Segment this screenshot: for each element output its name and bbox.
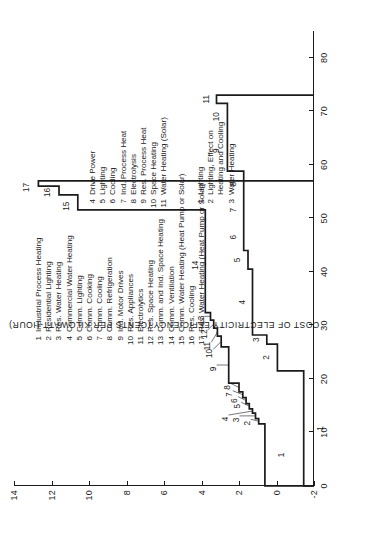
legend-item: 1Lighting: [196, 122, 206, 210]
legend-item-label: Water Heating (Solar): [159, 117, 169, 195]
leader-line: [231, 384, 239, 388]
legend-item-number: 5: [98, 195, 108, 210]
x-tick-label: 40: [319, 267, 329, 277]
y-tick-label: 12: [47, 490, 57, 503]
leader-line: [213, 341, 221, 349]
legend-item-label: Industrial Process Heating: [34, 238, 44, 332]
legend-item-label: Comm. Refrigeration: [105, 257, 115, 332]
legend-item-label: Res. Water Heating: [54, 262, 64, 332]
step-label: 4: [237, 300, 246, 305]
y-tick-label: 8: [122, 490, 132, 503]
step-label: 11: [201, 95, 210, 104]
legend-item-number: 10: [126, 332, 136, 347]
step-label: 6: [230, 398, 239, 403]
legend-item-number: 9: [116, 332, 126, 347]
step-label: 9: [208, 367, 217, 372]
step-label: 3: [251, 337, 260, 342]
legend-item-number: 8: [129, 195, 139, 210]
legend-item-label: Comm. Cooking: [85, 274, 95, 332]
y-tick: [314, 481, 315, 486]
legend-item-label: Lighting, Effect on: [206, 130, 216, 195]
step-label: 5: [233, 258, 242, 263]
step-label: 7: [224, 392, 233, 397]
legend-item-number: 4: [88, 195, 98, 210]
legend-item-number: 13: [156, 332, 166, 347]
legend-item-number: 6: [85, 332, 95, 347]
legend-item-label: Residential Lighting: [44, 261, 54, 332]
y-tick-label: 4: [197, 490, 207, 503]
step-label: 3: [231, 418, 240, 423]
legend-item-number: 7: [95, 332, 105, 347]
step-label: 6: [228, 235, 237, 240]
legend-item-number: 2: [44, 332, 54, 347]
y-tick-label: 2: [234, 490, 244, 503]
x-tick-label: 30: [319, 320, 329, 330]
legend-item: 3Res. Water Heating: [54, 174, 64, 347]
x-tick-label: 70: [319, 106, 329, 116]
legend-item-number: 8: [105, 332, 115, 347]
x-tick-label: 50: [319, 213, 329, 223]
legend-item-number: 1: [196, 195, 206, 210]
legend-item: 4Drive Power: [88, 117, 98, 210]
legend-item-label: Res. Appliances: [126, 274, 136, 332]
legend-item-label: Cooling: [108, 168, 118, 195]
legend-item-number: 14: [167, 332, 177, 347]
legend-lower-right: 4Drive Power5Lighting6Cooling7Ind. Proce…: [88, 117, 170, 210]
y-tick-label: 6: [159, 490, 169, 503]
legend-item: 3Water Heating: [227, 122, 237, 210]
step-label: 1: [315, 426, 324, 431]
legend-item-label: Comm. Ventilation: [167, 266, 177, 332]
legend-item-number: 3: [227, 195, 237, 210]
legend-item-label: Ind. Motor Drives: [116, 270, 126, 332]
step-label: 5: [233, 404, 242, 409]
legend-item-number: 2: [206, 195, 216, 210]
y-tick-label: 14: [9, 490, 19, 503]
legend-item-label: Comm. and Ind. Space Heating: [156, 219, 166, 332]
legend-item-label: Comm. Cooling: [95, 276, 105, 332]
leader-line: [208, 324, 214, 330]
legend-item: 1Industrial Process Heating: [34, 174, 44, 347]
step-label: 8: [223, 385, 232, 390]
legend-item-label: Water Heating: [227, 144, 237, 195]
legend-item-label: Electrolytics: [136, 289, 146, 332]
step-label: 2: [242, 421, 251, 426]
step-label: 2: [262, 355, 271, 360]
legend-item: 2Lighting, Effect on: [206, 122, 216, 210]
x-tick-label: 0: [319, 483, 329, 488]
legend-item-label: Res. Process Heat: [139, 128, 149, 195]
legend-item: 5Comm. Lighting: [75, 174, 85, 347]
leader-line: [229, 411, 253, 415]
legend-item-label: Heating and Cooling: [216, 122, 226, 195]
legend-item-label: Drive Power: [88, 151, 98, 195]
legend-item-label: Ind. Process Heat: [119, 131, 129, 195]
legend-item-label: Res. Space Heating: [146, 260, 156, 332]
legend-item-label: Lighting: [98, 167, 108, 195]
legend-item: 2Residential Lighting: [44, 174, 54, 347]
legend-item-number: 16: [187, 332, 197, 347]
chart-page: 01020304050607080 -202468101214 COST OF …: [0, 0, 374, 540]
legend-item-number: 1: [34, 332, 44, 347]
step-label: 1: [276, 453, 285, 458]
legend-item-label: Res. Cooling: [187, 286, 197, 332]
legend-lower-left: 1Lighting2Lighting, Effect onHeating and…: [196, 122, 237, 210]
legend-item-number: 5: [75, 332, 85, 347]
x-tick-label: 60: [319, 160, 329, 170]
x-tick-label: 20: [319, 374, 329, 384]
legend-item-label: Electrolysis: [129, 154, 139, 195]
legend-item: 4Commercial Water Heating: [65, 174, 75, 347]
legend-item: 10Space Heating: [149, 117, 159, 210]
legend-item-number: 15: [177, 332, 187, 347]
legend-item-number: [216, 195, 226, 210]
step-label: 4: [220, 417, 229, 422]
legend-item: Heating and Cooling: [216, 122, 226, 210]
legend-item: 15Comm. Water Heating (Heat Pump or Sola…: [177, 174, 187, 347]
legend-item-label: Lighting: [196, 167, 206, 195]
legend-item-label: Comm. Lighting: [75, 275, 85, 332]
y-tick-label: 10: [84, 490, 94, 503]
legend-item-number: 7: [119, 195, 129, 210]
legend-item: 8Electrolysis: [129, 117, 139, 210]
y-tick-label: -2: [309, 490, 319, 503]
legend-item-label: Comm. Water Heating (Heat Pump or Solar): [177, 174, 187, 332]
legend-item-number: 9: [139, 195, 149, 210]
leader-line: [251, 419, 259, 421]
